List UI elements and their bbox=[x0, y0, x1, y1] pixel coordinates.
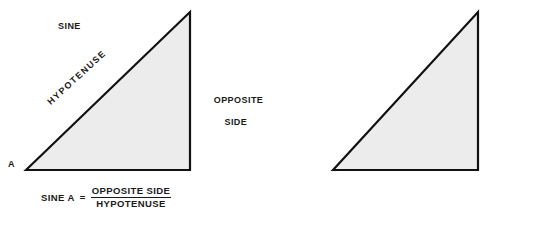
sine-formula-equals: = bbox=[80, 192, 86, 203]
trigonometry-diagram: SINE A HYPOTENUSE OPPOSITE SIDE SINE A =… bbox=[0, 0, 547, 239]
sine-opposite-line-2: SIDE bbox=[224, 117, 247, 127]
tangent-triangle-shape bbox=[273, 0, 547, 239]
sine-title: SINE bbox=[58, 21, 142, 32]
sine-vertex-label-a: A bbox=[8, 159, 15, 170]
sine-panel: SINE A HYPOTENUSE OPPOSITE SIDE SINE A =… bbox=[0, 0, 274, 239]
tangent-panel: TANGENT A OPPOSITE SIDE ADJACENT SIDE TA… bbox=[273, 0, 547, 239]
sine-opposite-line-1: OPPOSITE bbox=[214, 95, 264, 105]
tangent-triangle-polygon bbox=[333, 12, 478, 170]
sine-formula-denominator: HYPOTENUSE bbox=[91, 198, 172, 210]
sine-formula-numerator: OPPOSITE SIDE bbox=[91, 185, 172, 198]
sine-triangle-polygon bbox=[26, 12, 190, 170]
sine-formula: SINE A = OPPOSITE SIDE HYPOTENUSE bbox=[41, 185, 171, 209]
sine-formula-lhs: SINE A bbox=[41, 192, 75, 203]
sine-opposite-side-label: OPPOSITE SIDE bbox=[196, 84, 258, 139]
sine-formula-fraction: OPPOSITE SIDE HYPOTENUSE bbox=[91, 185, 172, 209]
